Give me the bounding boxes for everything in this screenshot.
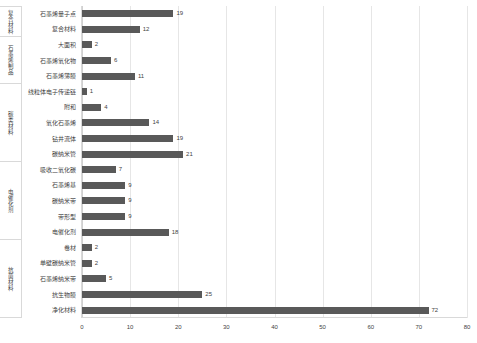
bar-value-label: 2: [95, 260, 98, 267]
group-tick: 电催化剂: [0, 162, 22, 240]
bar-value-label: 9: [128, 213, 131, 220]
bar[interactable]: [82, 244, 92, 251]
bar-row[interactable]: 9: [82, 193, 467, 209]
category-tick: 钻井流体: [22, 131, 79, 147]
bar-row[interactable]: 2: [82, 256, 467, 272]
bar-row[interactable]: 1: [82, 84, 467, 100]
x-tick-label: 40: [271, 323, 278, 331]
bar-value-label: 25: [205, 291, 212, 298]
bar-row[interactable]: 2: [82, 240, 467, 256]
category-tick: 单壁碳纳米管: [22, 256, 79, 272]
bar[interactable]: [82, 88, 87, 95]
bar-row[interactable]: 5: [82, 271, 467, 287]
category-label: 电催化剂: [52, 228, 76, 236]
bar-row[interactable]: 19: [82, 6, 467, 22]
bar-row[interactable]: 9: [82, 209, 467, 225]
bar-row[interactable]: 7: [82, 162, 467, 178]
bar-value-label: 4: [104, 104, 107, 111]
bar-row[interactable]: 6: [82, 53, 467, 69]
bar-row[interactable]: 12: [82, 22, 467, 38]
category-label: 氧化石墨烯: [46, 119, 76, 127]
bar[interactable]: [82, 197, 125, 204]
bar[interactable]: [82, 229, 169, 236]
bar[interactable]: [82, 151, 183, 158]
bar[interactable]: [82, 119, 149, 126]
category-tick: 吸收二氧化碳: [22, 162, 79, 178]
bar[interactable]: [82, 41, 92, 48]
category-tick: 石墨烯薄膜: [22, 68, 79, 84]
bar-value-label: 2: [95, 244, 98, 251]
bar[interactable]: [82, 213, 125, 220]
bar[interactable]: [82, 10, 173, 17]
category-label: 单壁碳纳米管: [40, 259, 76, 267]
bar-value-label: 18: [172, 229, 179, 236]
group-tick: 复合材料: [0, 6, 22, 37]
bar-value-label: 21: [186, 151, 193, 158]
category-label: 碳纳米管: [52, 150, 76, 158]
group-label: 复合材料: [8, 10, 14, 34]
bar[interactable]: [82, 57, 111, 64]
category-tick: 抗生物膜: [22, 287, 79, 303]
group-label: 碳类材料: [8, 111, 14, 135]
bar[interactable]: [82, 166, 116, 173]
bar-value-label: 2: [95, 41, 98, 48]
category-label: 附和: [64, 103, 76, 111]
category-label: 石墨烯量子点: [40, 10, 76, 18]
bar[interactable]: [82, 73, 135, 80]
category-label: 钻井流体: [52, 135, 76, 143]
bar-row[interactable]: 11: [82, 68, 467, 84]
bar-value-label: 1: [90, 88, 93, 95]
category-label: 石墨烯薄膜: [46, 72, 76, 80]
category-tick: 石墨烯基: [22, 178, 79, 194]
bar-value-label: 72: [432, 307, 439, 314]
bar-value-label: 19: [176, 135, 183, 142]
bar-value-label: 6: [114, 57, 117, 64]
category-label: 碳纳米带: [52, 197, 76, 205]
group-tick: 石墨烯制品: [0, 37, 22, 84]
bar-value-label: 11: [138, 73, 144, 80]
bar[interactable]: [82, 104, 101, 111]
category-label: 大面积: [58, 41, 76, 49]
category-label: 吸收二氧化碳: [40, 166, 76, 174]
bar-row[interactable]: 18: [82, 224, 467, 240]
x-tick-label: 60: [367, 323, 374, 331]
category-tick: 带形型: [22, 209, 79, 225]
group-tick: 抗菌材料: [0, 240, 22, 318]
bar-row[interactable]: 4: [82, 100, 467, 116]
bar-chart: 复合材料石墨烯制品碳类材料电催化剂抗菌材料 石墨烯量子点复合材料大面积石墨烯氧化…: [0, 0, 477, 343]
bar-row[interactable]: 9: [82, 178, 467, 194]
x-tick-label: 0: [80, 323, 83, 331]
group-axis: 复合材料石墨烯制品碳类材料电催化剂抗菌材料: [0, 6, 22, 318]
category-label: 净化材料: [52, 306, 76, 314]
bar-row[interactable]: 14: [82, 115, 467, 131]
bar[interactable]: [82, 260, 92, 267]
category-label: 带形型: [58, 213, 76, 221]
category-tick: 氧化石墨烯: [22, 115, 79, 131]
bar-row[interactable]: 21: [82, 146, 467, 162]
category-label: 线粒体电子传递链: [28, 88, 76, 96]
group-label: 石墨烯制品: [8, 45, 14, 75]
bar[interactable]: [82, 307, 429, 314]
bar[interactable]: [82, 291, 202, 298]
bar-value-label: 9: [128, 182, 131, 189]
x-tick-label: 10: [127, 323, 134, 331]
bar-row[interactable]: 2: [82, 37, 467, 53]
category-tick: 卷材: [22, 240, 79, 256]
category-tick: 净化材料: [22, 302, 79, 318]
category-axis: 石墨烯量子点复合材料大面积石墨烯氧化物石墨烯薄膜线粒体电子传递链附和氧化石墨烯钻…: [22, 6, 82, 318]
group-tick: 碳类材料: [0, 84, 22, 162]
bar[interactable]: [82, 135, 173, 142]
category-label: 石墨烯纳米带: [40, 275, 76, 283]
bar-row[interactable]: 25: [82, 287, 467, 303]
bar[interactable]: [82, 275, 106, 282]
category-label: 石墨烯基: [52, 181, 76, 189]
category-tick: 碳纳米管: [22, 146, 79, 162]
bar[interactable]: [82, 26, 140, 33]
bar[interactable]: [82, 182, 125, 189]
bar-row[interactable]: 19: [82, 131, 467, 147]
bar-row[interactable]: 72: [82, 302, 467, 318]
category-tick: 复合材料: [22, 22, 79, 38]
plot-area: 19122611141419217999182252572: [82, 6, 467, 318]
x-axis-ticks: 01020304050607080: [82, 321, 467, 335]
x-tick-label: 50: [319, 323, 326, 331]
